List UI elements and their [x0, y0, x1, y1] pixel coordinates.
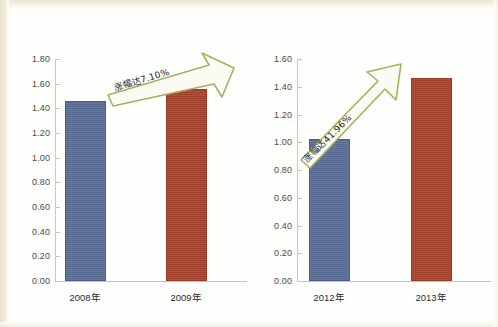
y-axis-line-left [55, 59, 56, 282]
y-tick-mark [56, 207, 60, 208]
y-tick-mark [298, 198, 302, 199]
bar-chart-2008-2009: 1.801.601.401.201.000.800.600.400.200.00… [9, 8, 251, 322]
y-tick-label: 1.20 [274, 110, 292, 119]
plot-area-left: 1.801.601.401.201.000.800.600.400.200.00… [9, 8, 251, 322]
y-tick-label: 1.40 [32, 104, 50, 113]
y-tick-label: 0.40 [274, 221, 292, 230]
y-tick-label: 0.20 [32, 252, 50, 261]
page-edge-left [0, 0, 9, 327]
y-tick-label: 0.60 [32, 203, 50, 212]
y-tick-mark [298, 115, 302, 116]
page-edge-right [493, 0, 498, 327]
y-tick-label: 0.20 [274, 249, 292, 258]
y-tick-label: 1.40 [274, 82, 292, 91]
y-tick-mark [298, 226, 302, 227]
chart-pair-container: 1.801.601.401.201.000.800.600.400.200.00… [9, 8, 493, 322]
y-tick-label: 1.60 [274, 55, 292, 64]
page-edge-top [0, 0, 498, 8]
y-tick-mark [56, 281, 60, 282]
y-tick-label: 1.00 [32, 153, 50, 162]
y-tick-label: 0.40 [32, 227, 50, 236]
x-category-label: 2009年 [170, 290, 201, 304]
y-tick-mark [56, 182, 60, 183]
y-tick-mark [298, 253, 302, 254]
x-category-label: 2012年 [313, 290, 344, 304]
bar-2009年 [166, 89, 207, 281]
y-tick-mark [298, 59, 302, 60]
y-tick-mark [298, 87, 302, 88]
y-tick-label: 1.60 [32, 79, 50, 88]
x-category-label: 2013年 [415, 290, 446, 304]
y-tick-label: 0.00 [274, 277, 292, 286]
x-axis-line-left [55, 281, 247, 282]
y-tick-mark [56, 59, 60, 60]
y-tick-label: 0.00 [32, 277, 50, 286]
plot-area-right: 1.601.401.201.000.800.600.400.200.00 201… [251, 8, 493, 322]
y-tick-mark [56, 133, 60, 134]
y-tick-mark [56, 232, 60, 233]
bar-2008年 [65, 101, 106, 281]
y-tick-mark [56, 84, 60, 85]
y-tick-label: 1.00 [274, 138, 292, 147]
bar-chart-2012-2013: 1.601.401.201.000.800.600.400.200.00 201… [251, 8, 493, 322]
y-tick-mark [56, 158, 60, 159]
x-category-label: 2008年 [69, 290, 100, 304]
y-tick-mark [298, 142, 302, 143]
y-tick-mark [56, 256, 60, 257]
y-tick-mark [56, 108, 60, 109]
y-tick-label: 0.80 [274, 166, 292, 175]
y-tick-label: 0.80 [32, 178, 50, 187]
y-tick-label: 1.80 [32, 55, 50, 64]
scanned-page: 1.801.601.401.201.000.800.600.400.200.00… [0, 0, 498, 327]
y-tick-label: 0.60 [274, 193, 292, 202]
y-tick-label: 1.20 [32, 129, 50, 138]
bar-2012年 [309, 139, 350, 281]
x-axis-line-right [297, 281, 491, 282]
page-edge-bottom [0, 322, 498, 327]
y-tick-mark [298, 170, 302, 171]
y-tick-mark [298, 281, 302, 282]
bar-2013年 [411, 78, 452, 281]
growth-arrow-left-label: 涨幅达7.10% [112, 65, 171, 94]
